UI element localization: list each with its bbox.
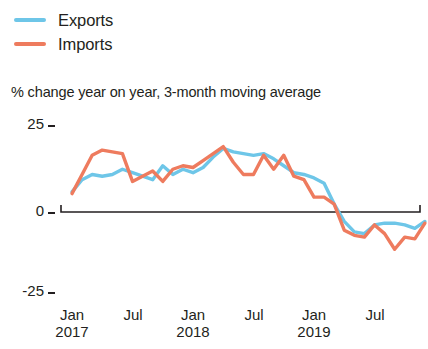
- zero-axis-line: [61, 205, 420, 212]
- x-tick-month: Jan: [286, 306, 342, 323]
- x-tick-month: Jul: [105, 306, 161, 323]
- y-axis-tick-mark-25: [48, 125, 55, 127]
- x-tick-month: Jan: [165, 306, 221, 323]
- chart-plot-area: 25 0 -25 Jan 2017 Jul Jan 2018 Jul: [0, 0, 428, 349]
- y-axis-tick-mark-0: [48, 212, 55, 214]
- x-axis-tick-jan-2019: Jan 2019: [286, 306, 342, 340]
- x-axis-tick-jul-2019: Jul: [347, 306, 403, 323]
- x-tick-month: Jul: [347, 306, 403, 323]
- x-tick-year: 2017: [44, 323, 100, 340]
- x-tick-month: Jul: [226, 306, 282, 323]
- y-axis-tick-neg25: -25: [10, 282, 44, 299]
- x-axis-tick-jan-2017: Jan 2017: [44, 306, 100, 340]
- x-tick-month: Jan: [44, 306, 100, 323]
- series-line-imports: [72, 147, 425, 250]
- y-axis-tick-25: 25: [16, 115, 44, 132]
- x-tick-year: 2019: [286, 323, 342, 340]
- x-axis-tick-jan-2018: Jan 2018: [165, 306, 221, 340]
- x-axis-tick-jul-2018: Jul: [226, 306, 282, 323]
- y-axis-tick-mark-neg25: [48, 292, 55, 294]
- x-axis-tick-jul-2017: Jul: [105, 306, 161, 323]
- x-tick-year: 2018: [165, 323, 221, 340]
- chart-figure: Exports Imports % change year on year, 3…: [0, 0, 428, 349]
- chart-svg: [0, 0, 428, 349]
- y-axis-tick-0: 0: [16, 202, 44, 219]
